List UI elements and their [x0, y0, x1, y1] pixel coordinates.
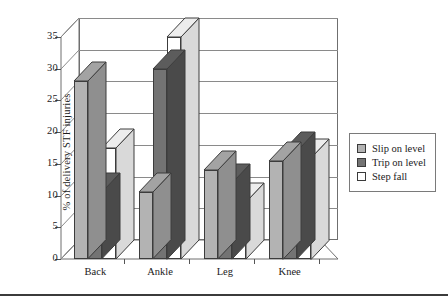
legend: Slip on levelTrip on levelStep fall — [349, 133, 436, 192]
legend-item[interactable]: Step fall — [357, 171, 426, 182]
x-axis-label: Knee — [257, 266, 323, 277]
y-tick-label: 30 — [47, 63, 58, 73]
bar-top-face — [204, 151, 237, 171]
x-axis-label: Back — [62, 266, 128, 277]
bar — [74, 81, 88, 259]
y-tick-label: 20 — [47, 126, 58, 136]
bar — [204, 170, 218, 259]
x-axis-label: Leg — [192, 266, 258, 277]
legend-label: Slip on level — [372, 143, 425, 154]
legend-swatch-icon — [357, 158, 366, 167]
bar-front-face — [269, 161, 283, 259]
y-tick-label: 25 — [47, 94, 58, 104]
bar — [269, 161, 283, 259]
y-tick-label: 15 — [47, 158, 58, 168]
gridline — [79, 50, 338, 51]
plot-area: 05101520253035 BackAnkleLegKnee — [61, 18, 338, 259]
x-axis-label: Ankle — [127, 266, 193, 277]
y-tick-label: 5 — [53, 221, 58, 231]
bar-top-face — [153, 50, 186, 70]
y-tick-depth-connector — [61, 18, 79, 39]
gridline — [79, 18, 338, 19]
legend-swatch-icon — [357, 172, 366, 181]
bottom-divider — [0, 294, 448, 296]
bar-top-face — [269, 142, 302, 162]
y-tick-label: 10 — [47, 190, 58, 200]
bar-front-face — [204, 170, 218, 259]
legend-item[interactable]: Trip on level — [357, 157, 426, 168]
legend-label: Trip on level — [372, 157, 426, 168]
gridline — [79, 81, 338, 82]
bar — [139, 192, 153, 259]
gridline — [79, 113, 338, 114]
bar-top-face — [139, 173, 172, 193]
bar-front-face — [74, 81, 88, 259]
bar-top-face — [167, 18, 200, 38]
legend-label: Step fall — [372, 171, 407, 182]
y-tick-label: 0 — [53, 253, 58, 263]
y-tick-label: 35 — [47, 31, 58, 41]
y-axis-title: % of delivery STF injuries — [61, 93, 72, 210]
bar-side-face — [88, 62, 107, 260]
bar-front-face — [139, 192, 153, 259]
legend-item[interactable]: Slip on level — [357, 143, 426, 154]
bar-top-face — [74, 62, 107, 82]
figure-container: 05101520253035 BackAnkleLegKnee % of del… — [0, 0, 448, 304]
legend-swatch-icon — [357, 144, 366, 153]
